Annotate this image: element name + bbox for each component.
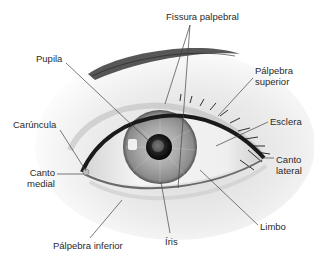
eye-anatomy-diagram: Fissura palpebral Pupila Pálpebra superi… bbox=[0, 0, 314, 265]
label-palpebra-superior: Pálpebra superior bbox=[255, 65, 293, 87]
label-esclera: Esclera bbox=[270, 116, 302, 127]
label-palpebra-superior-line2: superior bbox=[255, 76, 293, 87]
label-canto-lateral: Canto lateral bbox=[276, 154, 302, 176]
label-canto-medial: Canto medial bbox=[22, 167, 55, 189]
label-canto-lateral-line2: lateral bbox=[276, 165, 302, 176]
label-canto-medial-line1: Canto bbox=[22, 167, 55, 178]
label-limbo: Limbo bbox=[260, 221, 286, 232]
label-canto-lateral-line1: Canto bbox=[276, 154, 302, 165]
label-caruncula: Carúncula bbox=[13, 119, 56, 130]
label-iris: Íris bbox=[165, 236, 178, 247]
label-palpebra-superior-line1: Pálpebra bbox=[255, 65, 293, 76]
corneal-reflection bbox=[128, 139, 137, 150]
label-pupila: Pupila bbox=[36, 53, 62, 64]
label-canto-medial-line2: medial bbox=[22, 178, 55, 189]
label-palpebra-inferior: Pálpebra inferior bbox=[53, 240, 123, 251]
label-fissura-palpebral: Fissura palpebral bbox=[166, 11, 239, 22]
